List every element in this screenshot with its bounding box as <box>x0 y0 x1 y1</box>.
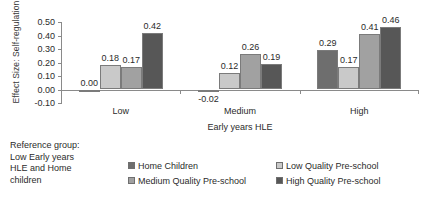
legend-swatch-icon <box>128 177 135 184</box>
bar-group-high: 0.290.170.410.46High <box>300 22 419 103</box>
legend-label: High Quality Pre-school <box>286 176 381 186</box>
x-axis-category-label: High <box>300 106 419 116</box>
legend-label: Home Children <box>138 161 198 171</box>
legend-item-high-quality-preschool[interactable]: High Quality Pre-school <box>276 176 381 186</box>
bar-value-label: 0.42 <box>136 21 169 31</box>
reference-group-note: Reference group: Low Early years HLE and… <box>10 140 122 186</box>
chart-figure: Effect Size: Self-regulation 0.500.400.3… <box>0 0 437 202</box>
legend-item-home-children[interactable]: Home Children <box>128 161 276 171</box>
legend-label: Low Quality Pre-school <box>286 161 379 171</box>
plot-area: 0.500.400.300.200.100.00-0.10 0.000.180.… <box>61 22 419 103</box>
y-axis-tick <box>58 103 62 104</box>
legend-row: Home Children Low Quality Pre-school <box>128 158 428 173</box>
legend-item-low-quality-preschool[interactable]: Low Quality Pre-school <box>276 161 379 171</box>
bar-value-label: 0.19 <box>255 52 288 62</box>
bar[interactable] <box>380 27 401 89</box>
bar[interactable] <box>121 67 142 90</box>
x-axis-tick <box>418 90 419 94</box>
bar-value-label: 0.29 <box>311 38 344 48</box>
bar[interactable] <box>79 90 100 92</box>
y-axis-tick-label: 0.30 <box>37 44 55 54</box>
bar[interactable] <box>198 90 219 93</box>
x-axis-category-label: Low <box>61 106 180 116</box>
y-axis-tick-label: 0.00 <box>37 85 55 95</box>
x-axis-tick <box>300 90 301 94</box>
legend-swatch-icon <box>276 177 283 184</box>
x-axis-tick <box>180 90 181 94</box>
legend-row: Medium Quality Pre-school High Quality P… <box>128 173 428 188</box>
x-axis-tick <box>61 90 62 94</box>
y-axis-tick-label: 0.50 <box>37 17 55 27</box>
y-axis-tick-label: 0.10 <box>37 71 55 81</box>
legend-swatch-icon <box>128 162 135 169</box>
bar-group-medium: -0.020.120.260.19Medium <box>180 22 299 103</box>
bar[interactable] <box>359 34 380 89</box>
bar-group-low: 0.000.180.170.42Low <box>61 22 180 103</box>
bar[interactable] <box>219 73 240 89</box>
y-axis-tick-label: 0.20 <box>37 58 55 68</box>
bar[interactable] <box>100 65 121 89</box>
bar-value-label: 0.46 <box>374 15 407 25</box>
y-axis-tick-label: -0.10 <box>34 98 55 108</box>
x-axis-title: Early years HLE <box>61 122 419 132</box>
bar[interactable] <box>261 64 282 90</box>
y-axis-title: Effect Size: Self-regulation <box>11 0 21 112</box>
bar-value-label: -0.02 <box>192 94 225 104</box>
legend-swatch-icon <box>276 162 283 169</box>
bar[interactable] <box>142 33 163 90</box>
note-line: children <box>10 175 122 187</box>
legend-label: Medium Quality Pre-school <box>138 176 246 186</box>
note-line: HLE and Home <box>10 163 122 175</box>
y-axis-tick-label: 0.40 <box>37 31 55 41</box>
bar[interactable] <box>338 67 359 90</box>
legend-item-medium-quality-preschool[interactable]: Medium Quality Pre-school <box>128 176 276 186</box>
note-line: Reference group: <box>10 140 122 152</box>
x-axis-category-label: Medium <box>180 106 299 116</box>
chart-legend: Home Children Low Quality Pre-school Med… <box>128 158 428 188</box>
note-line: Low Early years <box>10 152 122 164</box>
